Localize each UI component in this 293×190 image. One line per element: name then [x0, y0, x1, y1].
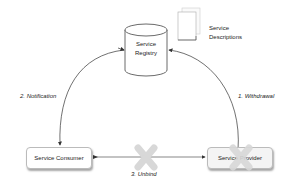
service-consumer-node[interactable]: Service Consumer: [26, 147, 92, 169]
registry-label: Service Registry: [125, 40, 167, 58]
document-stack-icon: [178, 8, 200, 40]
withdrawal-label: 1. Withdrawal: [238, 93, 274, 99]
notification-arrow-head-start: [118, 48, 124, 50]
service-descriptions-label: Service Descriptions: [209, 24, 242, 42]
service-provider-node[interactable]: Service Provider: [207, 147, 273, 169]
unbind-cross-icon: [138, 148, 154, 167]
notification-label: 2. Notification: [20, 93, 56, 99]
unbind-label: 3. Unbind: [131, 171, 157, 177]
notification-arrow: [60, 50, 124, 145]
withdrawal-arrow: [169, 50, 238, 150]
service-provider-label: Service Provider: [218, 155, 262, 161]
service-consumer-label: Service Consumer: [34, 155, 83, 161]
